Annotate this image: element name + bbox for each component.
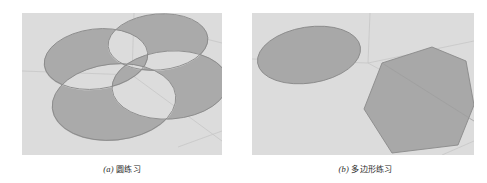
circle-exercise-canvas — [22, 13, 222, 155]
caption-b-text: 多边形练习 — [351, 165, 392, 174]
subfigure-b: (b) 多边形练习 — [244, 0, 487, 183]
caption-a-close: ) — [111, 164, 114, 174]
caption-b: (b) 多边形练习 — [244, 163, 487, 174]
circle-exercise-viewport — [22, 13, 222, 155]
caption-a-text: 圆练习 — [116, 165, 141, 174]
figure-container: (a) 圆练习 — [0, 0, 487, 183]
caption-a: (a) 圆练习 — [0, 163, 244, 174]
subfigure-a: (a) 圆练习 — [0, 0, 244, 183]
caption-b-close: ) — [346, 164, 349, 174]
polygon-exercise-canvas — [252, 13, 474, 155]
polygon-exercise-viewport — [252, 13, 474, 155]
